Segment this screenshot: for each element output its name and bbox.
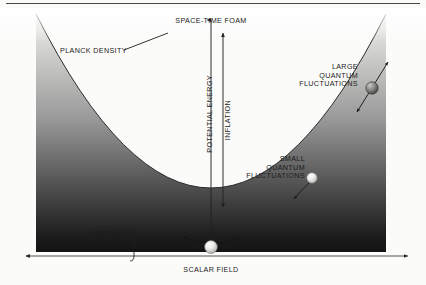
planck-density-label: PLANCK DENSITY [60, 47, 127, 56]
large-quantum-fluctuations-label: LARGE QUANTUM FLUCTUATIONS [258, 63, 358, 89]
inflation-axis-label: INFLATION [224, 100, 233, 190]
potential-energy-axis-label: POTENTIAL ENERGY [206, 75, 215, 215]
inflation-potential-figure: SPACE-TIME FOAM PLANCK DENSITY LARGE QUA… [0, 0, 426, 285]
scalar-field-axis-label: SCALAR FIELD [141, 266, 281, 275]
small-fluctuation-ball [307, 173, 318, 184]
minimum-ball [205, 241, 218, 254]
heating-of-universe-label: HEATING OF UNIVERSE [33, 230, 126, 247]
large-fluctuation-ball [366, 82, 378, 94]
small-quantum-fluctuations-label: SMALL QUANTUM FLUCTUATIONS [205, 155, 305, 181]
space-time-foam-label: SPACE-TIME FOAM [141, 17, 281, 26]
